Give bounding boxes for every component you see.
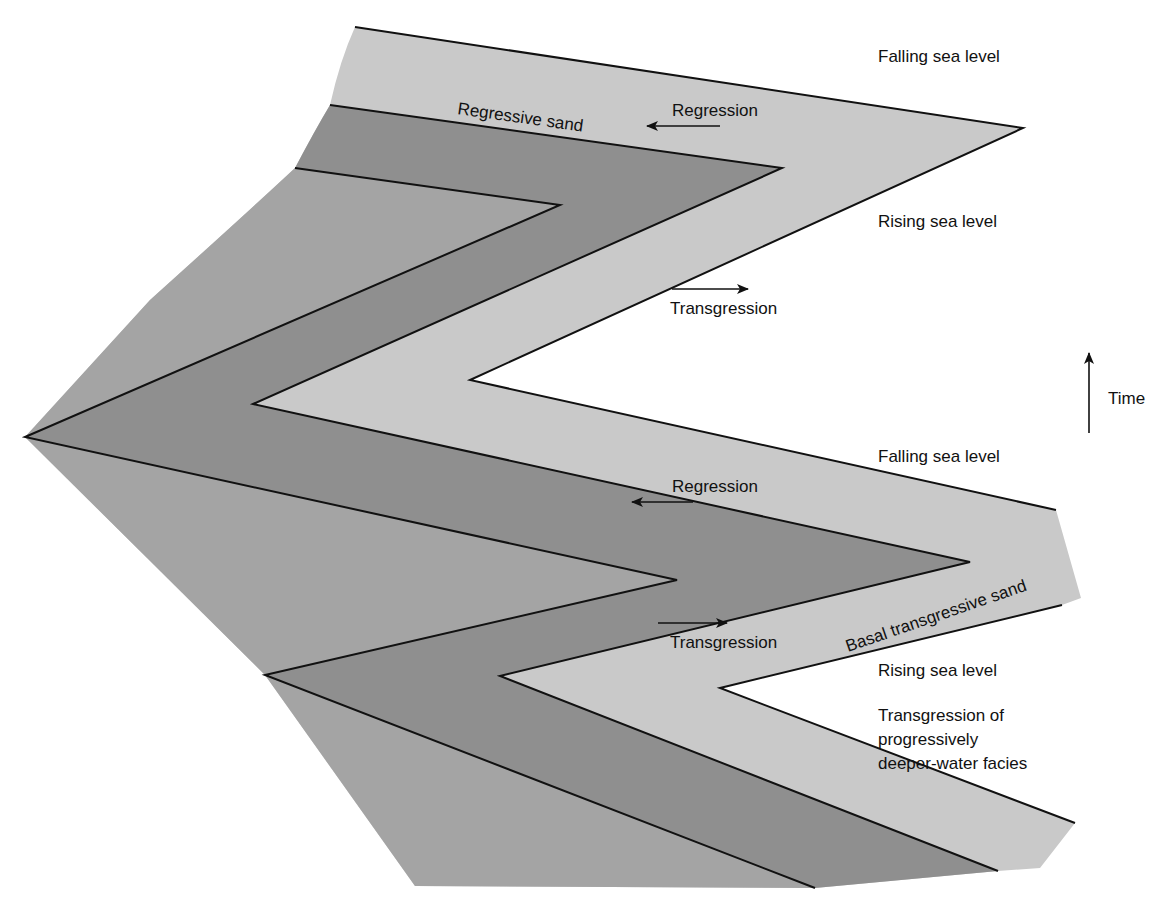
- label-transgression-of-line1: Transgression of: [878, 706, 1004, 725]
- label-transgression-of-line3: deeper-water facies: [878, 754, 1027, 773]
- label-rising-sea-level-top: Rising sea level: [878, 212, 997, 231]
- label-regression-top: Regression: [672, 101, 758, 120]
- label-transgression-bottom: Transgression: [670, 633, 777, 652]
- label-rising-sea-level-bottom: Rising sea level: [878, 661, 997, 680]
- label-regression-bottom: Regression: [672, 477, 758, 496]
- label-falling-sea-level-bottom: Falling sea level: [878, 447, 1000, 466]
- label-time: Time: [1108, 389, 1145, 408]
- stratigraphy-diagram: Falling sea level Rising sea level Regre…: [0, 0, 1172, 909]
- label-transgression-top: Transgression: [670, 299, 777, 318]
- label-transgression-of-line2: progressively: [878, 730, 979, 749]
- label-falling-sea-level-top: Falling sea level: [878, 47, 1000, 66]
